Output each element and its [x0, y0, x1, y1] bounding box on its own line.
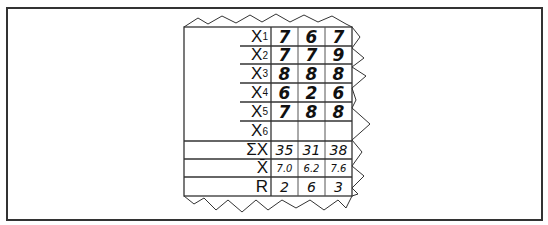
value-c3-x3: 8	[325, 64, 352, 83]
value-c3-x4: 6	[325, 83, 352, 102]
value-c1-x2: 7	[271, 46, 298, 64]
value-c3-x1: 7	[325, 27, 352, 46]
value-c1-x1: 7	[271, 27, 298, 46]
torn-right-edge	[352, 27, 370, 196]
value-c2-sum: 31	[298, 141, 325, 159]
value-c1-x4: 6	[271, 83, 298, 102]
value-c1-mean: 7.0	[271, 159, 298, 177]
row-label-x6: X6	[240, 121, 271, 141]
value-c1-sum: 35	[271, 141, 298, 159]
row-label-sum: ΣX	[230, 141, 271, 159]
value-c2-x4: 2	[298, 83, 325, 102]
value-c2-range: 6	[298, 177, 325, 196]
value-c2-x1: 6	[298, 27, 325, 46]
row-label-x3: X3	[240, 64, 271, 83]
value-c3-x5: 8	[325, 102, 352, 121]
value-c3-x2: 9	[325, 46, 352, 64]
value-c3-x6	[325, 121, 352, 141]
value-c3-range: 3	[325, 177, 352, 196]
value-c3-sum: 38	[325, 141, 352, 159]
row-label-mean: X̄	[230, 159, 271, 177]
value-c1-x5: 7	[271, 102, 298, 121]
row-label-x4: X4	[240, 83, 271, 102]
row-label-x5: X5	[240, 102, 271, 121]
row-label-range: R	[230, 177, 271, 196]
value-c2-mean: 6.2	[298, 159, 325, 177]
value-c1-range: 2	[271, 177, 298, 196]
torn-top-edge	[184, 14, 352, 27]
value-c2-x2: 7	[298, 46, 325, 64]
value-c1-x6	[271, 121, 298, 141]
value-c2-x3: 8	[298, 64, 325, 83]
value-c2-x5: 8	[298, 102, 325, 121]
torn-bottom-edge	[184, 196, 352, 212]
value-c2-x6	[298, 121, 325, 141]
value-c1-x3: 8	[271, 64, 298, 83]
value-c3-mean: 7.6	[325, 159, 352, 177]
row-label-x1: X1	[240, 27, 271, 46]
row-label-x2: X2	[240, 46, 271, 64]
